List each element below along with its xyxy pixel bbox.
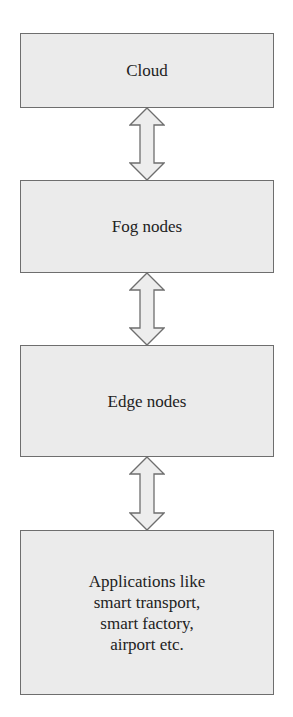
applications-node: Applications like smart transport, smart… [20,530,274,695]
double-arrow-icon [129,456,165,531]
cloud-node: Cloud [20,33,274,108]
fog-node: Fog nodes [20,180,274,273]
edge-node: Edge nodes [20,345,274,457]
cloud-label: Cloud [126,60,168,81]
edge-label: Edge nodes [108,391,187,412]
fog-label: Fog nodes [112,216,182,237]
double-arrow-icon [129,272,165,346]
applications-label: Applications like smart transport, smart… [89,571,206,655]
double-arrow-icon [129,107,165,181]
